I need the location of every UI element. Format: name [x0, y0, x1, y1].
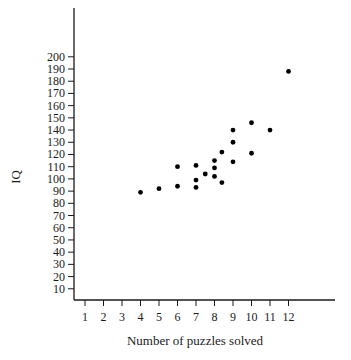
y-tick-label: 200 [47, 50, 65, 64]
y-tick-label: 60 [53, 221, 65, 235]
y-tick-label: 10 [53, 282, 65, 296]
x-tick-label: 5 [156, 310, 162, 324]
x-tick-label: 8 [212, 310, 218, 324]
x-axis-label: Number of puzzles solved [127, 333, 264, 348]
data-point [175, 164, 180, 169]
y-tick-label: 110 [47, 160, 65, 174]
y-tick-label: 130 [47, 135, 65, 149]
data-point [138, 190, 143, 195]
y-tick-label: 20 [53, 270, 65, 284]
y-tick-label: 40 [53, 245, 65, 259]
y-tick-label: 100 [47, 172, 65, 186]
data-points [138, 69, 291, 195]
y-tick-label: 90 [53, 184, 65, 198]
y-axis-label: IQ [8, 170, 23, 184]
data-point [194, 178, 199, 183]
data-point [194, 163, 199, 168]
y-tick-label: 120 [47, 147, 65, 161]
x-tick-label: 11 [264, 310, 276, 324]
data-point [231, 128, 236, 133]
y-tick-label: 140 [47, 123, 65, 137]
x-tick-label: 6 [175, 310, 181, 324]
data-point [286, 69, 291, 74]
y-tick-label: 160 [47, 99, 65, 113]
data-point [231, 159, 236, 164]
data-point [212, 158, 217, 163]
x-tick-label: 9 [230, 310, 236, 324]
y-tick-label: 30 [53, 257, 65, 271]
y-tick-label: 180 [47, 74, 65, 88]
x-axis: 123456789101112 [74, 300, 335, 324]
data-point [249, 120, 254, 125]
x-tick-label: 7 [193, 310, 199, 324]
data-point [249, 151, 254, 156]
data-point [212, 166, 217, 171]
data-point [220, 180, 225, 185]
x-tick-label: 12 [283, 310, 295, 324]
scatter-chart: 1020304050607080901001101201301401501601… [0, 0, 351, 360]
data-point [175, 184, 180, 189]
x-tick-label: 2 [101, 310, 107, 324]
x-tick-label: 3 [119, 310, 125, 324]
y-tick-label: 80 [53, 196, 65, 210]
y-tick-label: 190 [47, 62, 65, 76]
y-tick-label: 170 [47, 86, 65, 100]
data-point [220, 150, 225, 155]
x-tick-label: 10 [246, 310, 258, 324]
y-tick-label: 150 [47, 111, 65, 125]
data-point [194, 185, 199, 190]
y-tick-label: 50 [53, 233, 65, 247]
y-tick-label: 70 [53, 209, 65, 223]
data-point [157, 186, 162, 191]
y-axis: 1020304050607080901001101201301401501601… [47, 8, 74, 300]
x-tick-label: 1 [82, 310, 88, 324]
data-point [203, 172, 208, 177]
data-point [212, 174, 217, 179]
data-point [268, 128, 273, 133]
data-point [231, 140, 236, 145]
x-tick-label: 4 [138, 310, 144, 324]
